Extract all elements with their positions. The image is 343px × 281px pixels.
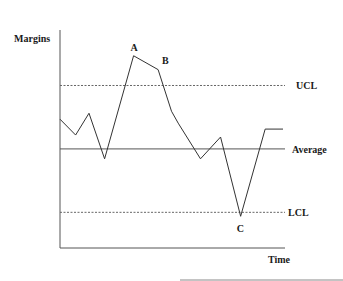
annotation-c: C [237,223,244,234]
annotation-a: A [131,42,139,53]
control-chart: Margins Time UCLAverageLCL ABC [0,0,343,281]
refline-label-lcl: LCL [288,207,309,218]
refline-label-average: Average [292,144,327,155]
series-line-margins [60,56,283,217]
x-axis-label: Time [268,254,291,265]
refline-label-ucl: UCL [296,80,317,91]
annotation-b: B [162,55,169,66]
y-axis-label: Margins [14,33,50,44]
